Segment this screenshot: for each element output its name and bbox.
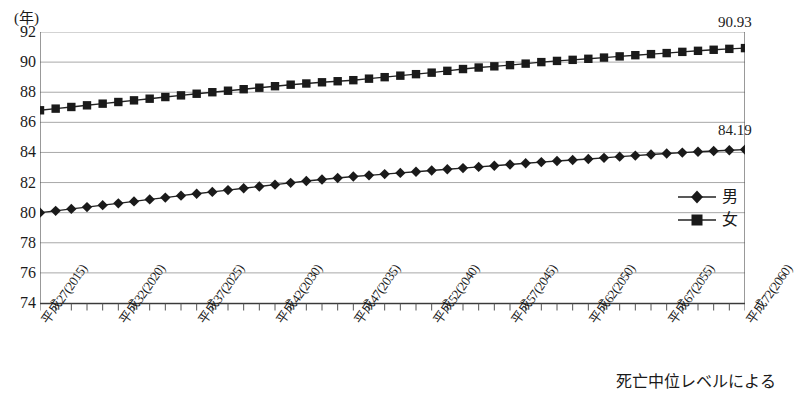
data-point (426, 165, 436, 175)
legend-label-female: 女 (722, 210, 738, 230)
data-point (207, 187, 217, 197)
data-point (67, 103, 75, 111)
x-axis-ticks (40, 303, 745, 313)
data-point (459, 65, 467, 73)
data-point (255, 84, 263, 92)
chart-legend: 男 女 (676, 186, 748, 232)
y-axis-tick-78: 78 (2, 235, 36, 251)
data-point (474, 63, 482, 71)
data-point (83, 101, 91, 109)
data-point (349, 76, 357, 84)
data-point (521, 59, 529, 67)
data-point (442, 164, 452, 174)
female-end-value-label: 90.93 (718, 14, 752, 31)
data-point (647, 50, 655, 58)
data-point (411, 167, 421, 177)
data-point (208, 88, 216, 96)
data-point (458, 163, 468, 173)
data-point (348, 171, 358, 181)
data-point (318, 78, 326, 86)
data-point (395, 168, 405, 178)
data-point (380, 73, 388, 81)
data-point (568, 56, 576, 64)
data-point (536, 157, 546, 167)
data-point (662, 49, 670, 57)
data-point (694, 47, 702, 55)
data-point (412, 70, 420, 78)
data-point (285, 178, 295, 188)
data-point (553, 57, 561, 65)
data-point (223, 185, 233, 195)
data-point (473, 162, 483, 172)
data-point (144, 194, 154, 204)
data-point (708, 146, 718, 156)
data-point (271, 82, 279, 90)
data-point (301, 176, 311, 186)
data-point (396, 71, 404, 79)
legend-label-male: 男 (722, 187, 738, 207)
y-axis-tick-74: 74 (2, 295, 36, 311)
data-point (443, 67, 451, 75)
data-point (270, 179, 280, 189)
data-point (97, 200, 107, 210)
series-markers-male (40, 144, 745, 217)
data-point (584, 55, 592, 63)
legend-marker-diamond-icon (676, 186, 718, 208)
data-point (302, 79, 310, 87)
y-axis-tick-90: 90 (2, 54, 36, 70)
life-expectancy-chart: (年) 74767880828486889092 平成27(2015)平成32(… (0, 0, 795, 404)
y-axis-tick-86: 86 (2, 114, 36, 130)
data-point (364, 170, 374, 180)
data-point (114, 98, 122, 106)
chart-footnote: 死亡中位レベルによる (616, 368, 776, 392)
y-axis-tick-88: 88 (2, 84, 36, 100)
y-axis-tick-80: 80 (2, 205, 36, 221)
series-markers-female (40, 44, 745, 115)
data-point (693, 146, 703, 156)
data-point (615, 52, 623, 60)
data-point (678, 48, 686, 56)
data-point (40, 207, 45, 217)
y-axis-tick-76: 76 (2, 265, 36, 281)
data-point (238, 183, 248, 193)
data-point (631, 51, 639, 59)
data-point (567, 155, 577, 165)
data-point (224, 87, 232, 95)
data-point (427, 68, 435, 76)
data-point (661, 148, 671, 158)
data-point (740, 144, 745, 154)
data-point (50, 206, 60, 216)
data-point (82, 202, 92, 212)
data-point (552, 156, 562, 166)
legend-row-female: 女 (676, 209, 748, 231)
y-axis-tick-84: 84 (2, 144, 36, 160)
data-point (177, 91, 185, 99)
data-point (489, 160, 499, 170)
data-point (176, 190, 186, 200)
data-point (599, 153, 609, 163)
data-point (505, 159, 515, 169)
data-point (709, 46, 717, 54)
legend-marker-square-icon (676, 209, 718, 231)
data-point (239, 85, 247, 93)
data-point (332, 173, 342, 183)
legend-row-male: 男 (676, 186, 748, 208)
data-point (725, 45, 733, 53)
data-point (129, 196, 139, 206)
data-point (333, 77, 341, 85)
x-axis-label-2060: 平成72(2060) (741, 260, 795, 327)
data-point (379, 169, 389, 179)
data-point (161, 93, 169, 101)
data-point (130, 96, 138, 104)
data-point (724, 145, 734, 155)
data-point (614, 151, 624, 161)
data-point (520, 158, 530, 168)
series-line-male (40, 150, 745, 213)
data-point (646, 149, 656, 159)
data-point (600, 53, 608, 61)
data-point (286, 80, 294, 88)
data-point (537, 58, 545, 66)
data-point (506, 61, 514, 69)
data-point (113, 198, 123, 208)
data-point (741, 44, 745, 52)
